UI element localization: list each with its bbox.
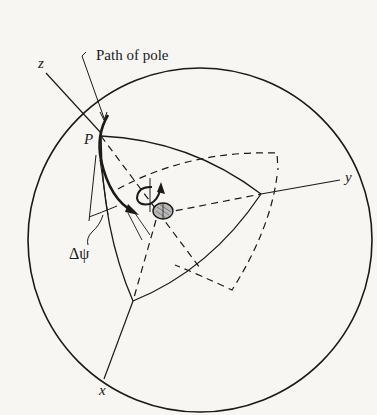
delta-psi-label: Δψ [69,246,89,262]
x-axis-label: x [99,383,106,398]
path-of-pole-label: Path of pole [96,48,169,63]
y-axis-label: y [345,170,352,185]
torque-line-1 [128,213,142,240]
octant-arc-bottom [133,194,261,301]
diagram-canvas [0,0,377,415]
displaced-octant [101,136,278,301]
delta-psi-line-1 [89,155,96,221]
z-axis-label: z [38,56,44,71]
y-axis [261,180,340,194]
x-axis [104,301,133,379]
sphere-outline [28,68,372,412]
delta-psi-leader [88,215,104,245]
spin-arrow [137,187,160,204]
octant-arc-top [101,136,261,194]
spin-arrowhead [157,182,165,194]
torque-line-2 [132,209,150,235]
spinning-body [153,203,173,219]
precession-diagram: Path of pole z y x P Δψ [0,0,377,415]
pole-label: P [84,132,93,147]
octant-arc-left [101,136,133,301]
